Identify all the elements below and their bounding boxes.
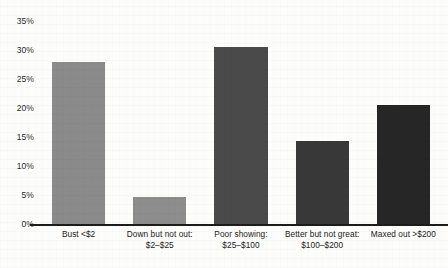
y-axis-tick-label: 35% bbox=[17, 16, 34, 26]
x-axis-tick-label: Maxed out >$200 bbox=[357, 229, 448, 240]
x-label-line-2: $100–$200 bbox=[276, 240, 369, 251]
bar[interactable] bbox=[296, 141, 349, 224]
x-axis-tick-label: Bust <$2 bbox=[32, 229, 125, 240]
bar-slot bbox=[282, 12, 363, 224]
x-label-line-1: Poor showing: bbox=[214, 229, 267, 239]
y-axis-tick-label: 30% bbox=[17, 45, 34, 55]
bar[interactable] bbox=[214, 47, 267, 224]
y-axis: 0%5%10%15%20%25%30%35% bbox=[0, 0, 34, 268]
x-axis: Bust <$2Down but not out:$2–$25Poor show… bbox=[38, 229, 444, 263]
bar[interactable] bbox=[377, 105, 430, 224]
y-axis-tick-label: 5% bbox=[22, 190, 35, 200]
bar-slot bbox=[200, 12, 281, 224]
x-axis-tick-label: Poor showing:$25–$100 bbox=[194, 229, 287, 250]
y-axis-tick-label: 10% bbox=[17, 161, 34, 171]
x-axis-tick-label: Down but not out:$2–$25 bbox=[113, 229, 206, 250]
y-axis-tick-label: 25% bbox=[17, 74, 34, 84]
x-axis-tick-label: Better but not great:$100–$200 bbox=[276, 229, 369, 250]
x-label-line-1: Bust <$2 bbox=[62, 229, 95, 239]
bar-slot bbox=[119, 12, 200, 224]
x-axis-baseline bbox=[30, 224, 448, 226]
y-axis-tick-label: 15% bbox=[17, 132, 34, 142]
y-axis-tick-label: 20% bbox=[17, 103, 34, 113]
x-label-line-2: $2–$25 bbox=[113, 240, 206, 251]
plot-area bbox=[38, 12, 444, 224]
bar-slot bbox=[363, 12, 444, 224]
x-label-line-1: Down but not out: bbox=[127, 229, 193, 239]
bar[interactable] bbox=[133, 197, 186, 224]
x-label-line-1: Better but not great: bbox=[285, 229, 359, 239]
x-label-line-1: Maxed out >$200 bbox=[371, 229, 436, 239]
x-label-line-2: $25–$100 bbox=[194, 240, 287, 251]
bar-chart: 0%5%10%15%20%25%30%35% Bust <$2Down but … bbox=[0, 0, 448, 268]
bar-slot bbox=[38, 12, 119, 224]
bar[interactable] bbox=[52, 62, 105, 224]
